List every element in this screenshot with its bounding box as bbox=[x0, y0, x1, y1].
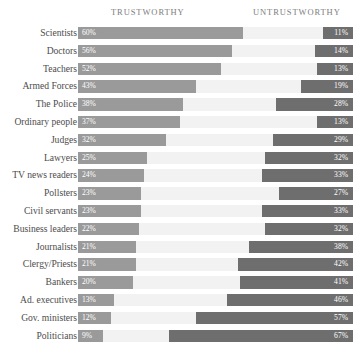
row-label: Business leaders bbox=[0, 223, 77, 235]
bar-track: 60%11% bbox=[78, 27, 353, 39]
chart-row: Civil servants23%33% bbox=[0, 204, 361, 222]
trustworthy-value-label: 9% bbox=[82, 330, 92, 342]
bar-track: 20%41% bbox=[78, 276, 353, 288]
row-label: Teachers bbox=[0, 63, 77, 75]
bar-track: 52%13% bbox=[78, 63, 353, 75]
row-label: Politicians bbox=[0, 330, 77, 342]
row-label: Gov. ministers bbox=[0, 312, 77, 324]
untrustworthy-value-label: 38% bbox=[334, 241, 348, 253]
chart-row: Judges32%29% bbox=[0, 133, 361, 151]
chart-row: Armed Forces43%19% bbox=[0, 79, 361, 97]
trustworthy-value-label: 52% bbox=[82, 63, 96, 75]
untrustworthy-value-label: 46% bbox=[334, 294, 348, 306]
untrustworthy-value-label: 19% bbox=[334, 80, 348, 92]
row-label: TV news readers bbox=[0, 169, 77, 181]
untrustworthy-value-label: 11% bbox=[334, 27, 348, 39]
chart-row: Bankers20%41% bbox=[0, 275, 361, 293]
bar-track: 9%67% bbox=[78, 330, 353, 342]
trustworthy-value-label: 60% bbox=[82, 27, 96, 39]
bar-track: 12%57% bbox=[78, 312, 353, 324]
row-label: Scientists bbox=[0, 27, 77, 39]
untrustworthy-value-label: 32% bbox=[334, 223, 348, 235]
untrustworthy-value-label: 29% bbox=[334, 134, 348, 146]
untrustworthy-value-label: 33% bbox=[334, 205, 348, 217]
chart-row: Business leaders22%32% bbox=[0, 222, 361, 240]
bar-track: 32%29% bbox=[78, 134, 353, 146]
bar-track: 23%27% bbox=[78, 187, 353, 199]
untrustworthy-bar bbox=[196, 312, 353, 324]
bar-track: 56%14% bbox=[78, 45, 353, 57]
untrustworthy-value-label: 33% bbox=[334, 169, 348, 181]
bar-track: 38%28% bbox=[78, 98, 353, 110]
trustworthy-value-label: 21% bbox=[82, 258, 96, 270]
row-label: Pollsters bbox=[0, 187, 77, 199]
untrustworthy-bar bbox=[169, 330, 353, 342]
trustworthy-value-label: 38% bbox=[82, 98, 96, 110]
untrustworthy-value-label: 14% bbox=[334, 45, 348, 57]
chart-row: Clergy/Priests21%42% bbox=[0, 257, 361, 275]
bar-track: 23%33% bbox=[78, 205, 353, 217]
chart-row: Teachers52%13% bbox=[0, 62, 361, 80]
untrustworthy-value-label: 57% bbox=[334, 312, 348, 324]
row-label: Doctors bbox=[0, 45, 77, 57]
chart-row: Politicians9%67% bbox=[0, 329, 361, 347]
untrustworthy-value-label: 13% bbox=[334, 63, 348, 75]
untrustworthy-value-label: 41% bbox=[334, 276, 348, 288]
trustworthy-bar bbox=[78, 63, 221, 75]
trustworthy-value-label: 56% bbox=[82, 45, 96, 57]
trustworthy-value-label: 23% bbox=[82, 205, 96, 217]
untrustworthy-value-label: 42% bbox=[334, 258, 348, 270]
bar-track: 25%32% bbox=[78, 152, 353, 164]
row-label: Lawyers bbox=[0, 152, 77, 164]
chart-row: The Police38%28% bbox=[0, 97, 361, 115]
trustworthy-value-label: 24% bbox=[82, 169, 96, 181]
trustworthy-value-label: 13% bbox=[82, 294, 96, 306]
bar-track: 22%32% bbox=[78, 223, 353, 235]
chart-row: Gov. ministers12%57% bbox=[0, 311, 361, 329]
chart-row: Scientists60%11% bbox=[0, 26, 361, 44]
trustworthy-value-label: 22% bbox=[82, 223, 96, 235]
chart-row: Journalists21%38% bbox=[0, 240, 361, 258]
untrustworthy-value-label: 27% bbox=[334, 187, 348, 199]
chart-row: Doctors56%14% bbox=[0, 44, 361, 62]
bar-track: 24%33% bbox=[78, 169, 353, 181]
chart-header: TRUSTWORTHY UNTRUSTWORTHY bbox=[0, 7, 361, 23]
trustworthy-value-label: 23% bbox=[82, 187, 96, 199]
chart-row: Ordinary people37%13% bbox=[0, 115, 361, 133]
row-label: Bankers bbox=[0, 276, 77, 288]
row-label: Judges bbox=[0, 134, 77, 146]
bar-track: 21%38% bbox=[78, 241, 353, 253]
chart-row: Lawyers25%32% bbox=[0, 151, 361, 169]
trustworthy-value-label: 12% bbox=[82, 312, 96, 324]
row-label: Civil servants bbox=[0, 205, 77, 217]
chart-row: Pollsters23%27% bbox=[0, 186, 361, 204]
row-label: Ordinary people bbox=[0, 116, 77, 128]
trustworthy-value-label: 20% bbox=[82, 276, 96, 288]
chart-row: Ad. executives13%46% bbox=[0, 293, 361, 311]
column-header-trustworthy: TRUSTWORTHY bbox=[111, 7, 185, 17]
trustworthy-bar bbox=[78, 45, 232, 57]
trustworthy-value-label: 32% bbox=[82, 134, 96, 146]
row-label: The Police bbox=[0, 98, 77, 110]
row-label: Ad. executives bbox=[0, 294, 77, 306]
bar-track: 37%13% bbox=[78, 116, 353, 128]
untrustworthy-value-label: 28% bbox=[334, 98, 348, 110]
trustworthy-value-label: 21% bbox=[82, 241, 96, 253]
column-header-untrustworthy: UNTRUSTWORTHY bbox=[253, 7, 341, 17]
bar-track: 43%19% bbox=[78, 80, 353, 92]
chart-row: TV news readers24%33% bbox=[0, 168, 361, 186]
row-label: Armed Forces bbox=[0, 80, 77, 92]
untrustworthy-value-label: 13% bbox=[334, 116, 348, 128]
bar-track: 21%42% bbox=[78, 258, 353, 270]
row-label: Clergy/Priests bbox=[0, 258, 77, 270]
untrustworthy-value-label: 67% bbox=[334, 330, 348, 342]
trustworthy-value-label: 43% bbox=[82, 80, 96, 92]
trustworthy-value-label: 37% bbox=[82, 116, 96, 128]
trust-professions-chart: TRUSTWORTHY UNTRUSTWORTHY Scientists60%1… bbox=[0, 0, 361, 355]
untrustworthy-value-label: 32% bbox=[334, 152, 348, 164]
row-label: Journalists bbox=[0, 241, 77, 253]
trustworthy-bar bbox=[78, 27, 243, 39]
trustworthy-value-label: 25% bbox=[82, 152, 96, 164]
bar-track: 13%46% bbox=[78, 294, 353, 306]
chart-rows: Scientists60%11%Doctors56%14%Teachers52%… bbox=[0, 26, 361, 346]
